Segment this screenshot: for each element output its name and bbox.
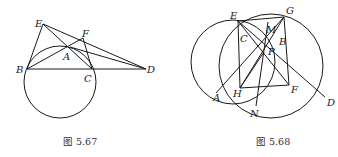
diagram-canvas: E F A B C D 图 5.67 E G M C B P A H F N D… — [0, 0, 338, 157]
segment-BE — [27, 24, 43, 69]
label-G: G — [286, 5, 294, 16]
segment-PH — [240, 52, 264, 88]
label-F: F — [290, 84, 299, 95]
figure-5-67: E F A B C D 图 5.67 — [15, 18, 155, 147]
segment-EH — [238, 21, 240, 88]
segment-EG — [238, 17, 284, 21]
label-N: N — [249, 108, 260, 119]
segment-AD — [70, 47, 146, 69]
label-E: E — [229, 10, 238, 21]
caption-5-68: 图 5.68 — [256, 136, 290, 147]
label-D: D — [146, 64, 155, 75]
label-F: F — [81, 28, 90, 39]
label-E: E — [34, 18, 43, 29]
caption-5-67: 图 5.67 — [63, 136, 97, 147]
label-B: B — [15, 64, 23, 75]
label-A: A — [62, 51, 70, 62]
label-D: D — [326, 97, 335, 108]
segment-HF — [240, 85, 289, 88]
label-C: C — [240, 33, 248, 44]
segment-GF — [284, 17, 289, 85]
label-C: C — [84, 73, 92, 84]
label-B: B — [278, 36, 286, 47]
label-M: M — [265, 24, 277, 35]
figure-5-68: E G M C B P A H F N D 图 5.68 — [191, 5, 335, 147]
label-H: H — [232, 88, 242, 99]
label-A: A — [212, 92, 220, 103]
label-P: P — [267, 46, 275, 57]
